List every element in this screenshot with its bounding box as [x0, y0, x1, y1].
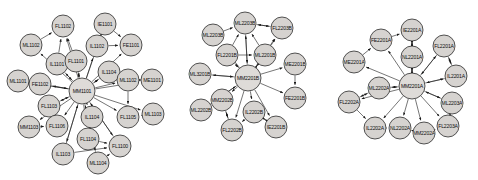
graph-edge — [233, 35, 239, 45]
graph-node[interactable]: FE1102 — [29, 73, 51, 95]
graph-edge — [260, 83, 282, 93]
graph-node[interactable]: FL1106 — [46, 115, 68, 137]
hub-node[interactable]: MM2201A — [399, 73, 425, 99]
graph-node[interactable]: FE2201A — [370, 29, 392, 51]
graph-node[interactable]: ML3201B — [189, 63, 211, 85]
node-label: IE2201B — [267, 124, 286, 130]
node-label: ML2203A — [442, 100, 464, 106]
graph-node[interactable]: FL1101 — [65, 50, 87, 72]
node-label: FL2203B — [272, 25, 292, 31]
node-label: IL1103 — [56, 151, 71, 157]
graph-node[interactable]: FL2203A — [437, 115, 459, 137]
hub-node[interactable]: MM2201B — [235, 65, 261, 91]
graph-edge — [404, 99, 409, 115]
node-label: MM1103 — [20, 124, 39, 130]
node-label: ML1102 — [22, 42, 39, 48]
graph-edge — [421, 96, 439, 116]
node-label: MM2201B — [237, 75, 260, 81]
graph-edge — [426, 92, 441, 99]
graph-node[interactable]: IL1102 — [86, 35, 108, 57]
graph-edge — [252, 34, 259, 45]
graph-node[interactable]: IE2201B — [265, 116, 287, 138]
graph-node[interactable]: NL2201A — [401, 46, 423, 68]
node-label: IL1101 — [50, 61, 65, 67]
graph-node[interactable]: ML2203B — [202, 24, 224, 46]
graph-node[interactable]: FL2201B — [216, 44, 238, 66]
graph-node[interactable]: FL1104 — [77, 128, 99, 150]
node-label: IL1104 — [85, 114, 100, 120]
graph-node[interactable]: ML2202A — [368, 77, 390, 99]
node-label: FL1106 — [49, 123, 65, 129]
graph-node[interactable]: FE2201B — [284, 87, 306, 109]
graph-node[interactable]: IL2202B — [243, 101, 265, 123]
nodes-group: FL1102IE1101ML1102IL1102FE1101IL1101FL11… — [7, 12, 467, 174]
graph-3-nodes: IE2201AFE2201AFL2201ANL2201AME2201AIL220… — [338, 19, 467, 144]
graph-edge — [258, 25, 271, 27]
graph-node[interactable]: MM2202A — [413, 122, 436, 144]
graph-node[interactable]: FL1105 — [117, 106, 139, 128]
graph-node[interactable]: ML1104 — [87, 152, 109, 174]
graph-node[interactable]: IL1101 — [46, 53, 68, 75]
hub-node[interactable]: MM1101 — [69, 78, 95, 104]
graph-node[interactable]: ML1101 — [7, 70, 29, 92]
graph-edge — [211, 75, 232, 77]
node-label: FE1102 — [32, 81, 49, 87]
node-label: IE1101 — [98, 21, 113, 27]
node-label: IE2201A — [403, 27, 422, 33]
node-label: NL2201A — [402, 54, 423, 60]
graph-node[interactable]: FL1103 — [38, 95, 60, 117]
node-label: FL2201A — [434, 43, 454, 49]
graph-node[interactable]: FL1102 — [52, 15, 74, 37]
graph-node[interactable]: FL2201A — [433, 35, 455, 57]
graph-edge — [363, 48, 371, 54]
graph-edge — [59, 97, 68, 101]
node-label: ME1101 — [143, 77, 161, 83]
graph-node[interactable]: MM1103 — [18, 116, 40, 138]
graph-node[interactable]: MM2202B — [211, 89, 234, 111]
graph-node[interactable]: ML2203A — [441, 92, 463, 114]
graph-node[interactable]: ML1103 — [142, 103, 164, 125]
graph-node[interactable]: IL2201A — [445, 65, 467, 87]
graph-node[interactable]: IL2202A — [364, 117, 386, 139]
graph-node[interactable]: IL1103 — [52, 143, 74, 165]
graph-node[interactable]: FE1101 — [120, 34, 142, 56]
graph-node[interactable]: IL1104 — [81, 106, 103, 128]
graph-edge — [271, 39, 275, 45]
graph-node[interactable]: ML1102 — [20, 34, 42, 56]
graph-edge — [250, 91, 251, 99]
node-label: MM2202A — [413, 130, 436, 136]
graph-node[interactable]: ME1101 — [141, 69, 163, 91]
graph-edge — [265, 119, 267, 120]
node-label: IL1102 — [90, 43, 105, 49]
graph-node[interactable]: FL2203B — [271, 17, 293, 39]
node-label: ME2201A — [343, 59, 365, 65]
graph-node[interactable]: FL2202A — [338, 91, 360, 113]
graph-edge — [415, 99, 420, 120]
graph-edge — [99, 141, 107, 143]
node-label: ML1103 — [144, 111, 161, 117]
graph-node[interactable]: ML1102 — [117, 69, 139, 91]
graph-node[interactable]: ME2201B — [284, 53, 306, 75]
graph-edge — [422, 55, 437, 74]
node-label: FL2203A — [438, 123, 458, 129]
graph-2-nodes: ML2203BFL2203BML2203BFL2201BML2201BML320… — [189, 12, 306, 141]
graph-node[interactable]: FL1100 — [109, 135, 131, 157]
node-label: FL2202B — [222, 127, 242, 133]
graph-edge — [232, 87, 238, 92]
graph-node[interactable]: FL2202B — [221, 119, 243, 141]
graph-node[interactable]: ML2203B — [234, 12, 256, 34]
graph-node[interactable]: ML2202B — [190, 99, 212, 121]
graph-node[interactable]: ME2201A — [343, 51, 365, 73]
node-label: ML3201B — [190, 71, 212, 77]
graph-node[interactable]: ML2201B — [254, 44, 276, 66]
graph-node[interactable]: NL2202A — [389, 117, 411, 139]
node-label: ME2201B — [284, 61, 306, 67]
graph-node[interactable]: IE1101 — [94, 13, 116, 35]
graph-edge — [246, 34, 248, 62]
node-label: ML1101 — [9, 78, 26, 84]
node-label: FL1101 — [68, 58, 84, 64]
graph-node[interactable]: IE2201A — [401, 19, 423, 41]
node-label: IL2201A — [447, 73, 466, 79]
node-label: IL2202B — [245, 109, 264, 115]
graph-edge — [361, 93, 369, 97]
